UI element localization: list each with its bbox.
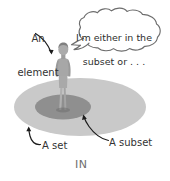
figure-canvas: An element A set A subset IN I'm either …: [0, 0, 170, 181]
caption-in: IN: [75, 159, 87, 171]
label-an-element-line1: An: [14, 33, 62, 44]
label-an-element-line2: element: [14, 67, 62, 78]
speech-bubble-line2: subset or . . .: [66, 56, 162, 68]
label-an-element: An element: [14, 11, 62, 101]
speech-bubble-text: I'm either in the subset or . . .: [66, 20, 162, 81]
label-a-set: A set: [42, 140, 67, 151]
speech-bubble-line1: I'm either in the: [66, 32, 162, 44]
label-a-subset: A subset: [109, 137, 152, 148]
